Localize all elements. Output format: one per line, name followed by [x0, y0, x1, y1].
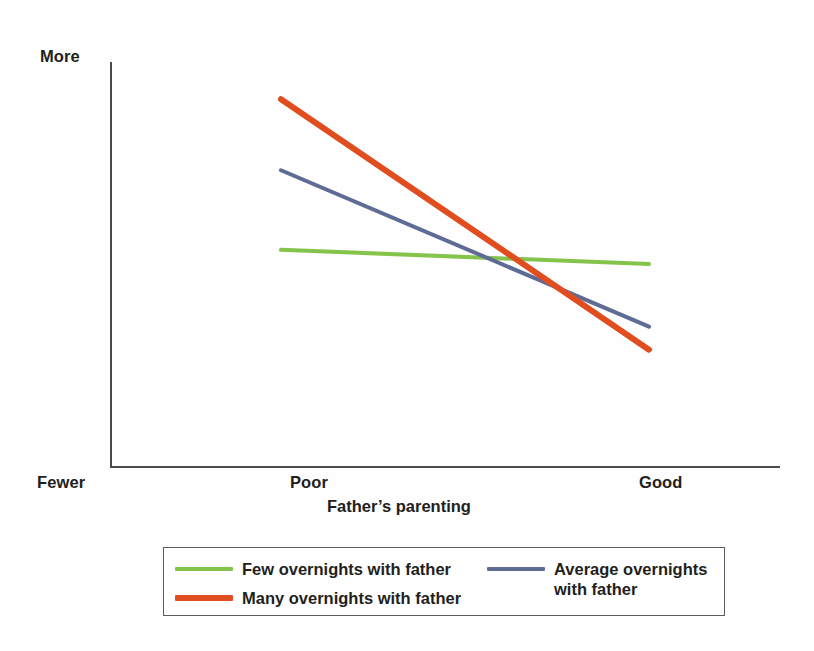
- legend-item-few-overnights: Few overnights with father: [175, 559, 451, 579]
- series-line-2: [281, 99, 649, 349]
- y-axis-line: [110, 62, 112, 468]
- x-axis-line: [110, 466, 780, 468]
- x-tick-label-poor: Poor: [290, 473, 328, 492]
- chart-figure: More Fewer Poor Good Father’s parenting …: [0, 0, 814, 651]
- legend-swatch-green: [175, 567, 233, 571]
- series-group: [281, 99, 649, 349]
- chart-legend: Few overnights with father Many overnigh…: [163, 547, 725, 616]
- legend-label-many-overnights: Many overnights with father: [242, 588, 461, 608]
- y-axis-top-label: More: [40, 47, 80, 66]
- legend-swatch-orange: [175, 595, 233, 602]
- legend-label-few-overnights: Few overnights with father: [242, 559, 451, 579]
- legend-item-average-overnights: Average overnights with father: [487, 559, 707, 599]
- legend-swatch-blue: [487, 567, 545, 571]
- y-axis-bottom-label: Fewer: [37, 473, 85, 492]
- x-tick-label-good: Good: [639, 473, 682, 492]
- legend-label-average-overnights: Average overnights with father: [554, 559, 707, 599]
- x-axis-title: Father’s parenting: [327, 497, 471, 516]
- series-line-1: [281, 170, 649, 326]
- legend-item-many-overnights: Many overnights with father: [175, 588, 461, 608]
- series-line-0: [281, 250, 649, 264]
